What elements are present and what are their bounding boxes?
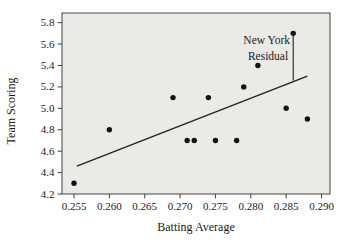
data-point: [192, 138, 197, 143]
data-point: [213, 138, 218, 143]
data-point: [283, 106, 288, 111]
data-point: [184, 138, 189, 143]
annotation-new-york-label: New York: [243, 34, 290, 46]
y-tick-label: 4.6: [41, 145, 55, 157]
y-tick-label: 4.4: [41, 166, 55, 178]
data-point: [71, 181, 76, 186]
x-tick-label: 0.275: [203, 200, 228, 212]
x-tick-label: 0.280: [238, 200, 263, 212]
annotation-residual-label: Residual: [248, 50, 288, 62]
data-point: [107, 127, 112, 132]
x-tick-label: 0.270: [168, 200, 193, 212]
y-tick-label: 4.8: [41, 123, 55, 135]
x-tick-label: 0.290: [309, 200, 334, 212]
y-tick-label: 5.6: [41, 38, 55, 50]
y-tick-label: 5.4: [41, 59, 55, 71]
data-point-new-york: [291, 31, 296, 36]
data-point: [305, 116, 310, 121]
y-tick-label: 4.2: [41, 188, 55, 200]
batting-average-scatter-chart: 0.2550.2600.2650.2700.2750.2800.2850.290…: [0, 0, 353, 245]
data-point: [234, 138, 239, 143]
x-tick-label: 0.285: [274, 200, 299, 212]
y-tick-label: 5.2: [41, 80, 55, 92]
x-tick-label: 0.265: [132, 200, 157, 212]
x-axis-title: Batting Average: [157, 220, 234, 234]
data-point: [255, 63, 260, 68]
data-point: [241, 84, 246, 89]
data-point: [206, 95, 211, 100]
x-tick-label: 0.255: [62, 200, 87, 212]
x-tick-label: 0.260: [97, 200, 122, 212]
y-tick-label: 5.8: [41, 16, 55, 28]
scatter-plot-figure: 0.2550.2600.2650.2700.2750.2800.2850.290…: [0, 0, 353, 245]
y-tick-label: 5.0: [41, 102, 55, 114]
y-axis-title: Team Scoring: [4, 78, 18, 145]
data-point: [170, 95, 175, 100]
